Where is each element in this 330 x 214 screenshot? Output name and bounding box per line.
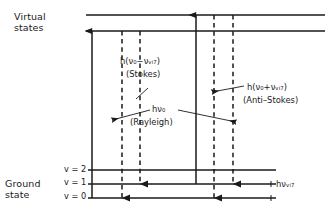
rayleigh-energy-label: hν₀: [152, 105, 165, 114]
diagram-canvas: Virtual states Ground state v = 2 v = 1 …: [0, 0, 330, 214]
level-label-v2: v = 2: [64, 165, 86, 174]
rayleigh-leader-right: [178, 110, 236, 122]
antistokes-leader-line: [212, 86, 244, 92]
antistokes-name-label: (Anti–Stokes): [243, 96, 298, 105]
level-label-v0: v = 0: [64, 192, 86, 201]
virtual-states-label-line2: states: [14, 23, 46, 34]
stokes-energy-label: h(ν₀−νᵥᵢ₇): [120, 57, 160, 66]
ground-state-label: Ground state: [5, 179, 41, 200]
ground-state-label-line2: state: [5, 190, 41, 201]
antistokes-energy-label: h(ν₀+νᵥᵢ₇): [247, 83, 287, 92]
rayleigh-name-label: (Rayleigh): [130, 118, 173, 127]
stokes-leader-line: [136, 88, 148, 99]
virtual-state-levels: [86, 15, 325, 31]
vibrational-energy-label: hνᵥᵢ₇: [276, 180, 294, 189]
ground-state-levels: [88, 170, 276, 198]
virtual-states-label: Virtual states: [14, 12, 46, 33]
level-label-v1: v = 1: [64, 178, 86, 187]
stokes-name-label: (Stokes): [126, 70, 160, 79]
